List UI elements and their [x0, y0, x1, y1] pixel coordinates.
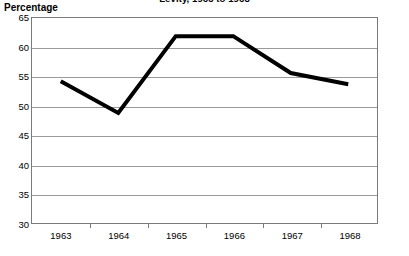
y-tick-label: 40	[18, 161, 29, 171]
y-tick-label: 45	[18, 132, 29, 142]
x-axis-tick	[321, 223, 322, 228]
x-tick-label: 1966	[224, 230, 245, 241]
x-axis-tick	[206, 223, 207, 228]
x-axis-tick	[263, 223, 264, 228]
plot-area: 6560555045403530 19631964196519661967196…	[31, 17, 378, 224]
series-line-percentage	[32, 18, 377, 223]
x-tick-label: 1967	[282, 230, 303, 241]
line-path	[61, 36, 348, 113]
y-tick-label: 50	[18, 102, 29, 112]
x-axis-tick	[90, 223, 91, 228]
y-tick-label: 60	[18, 43, 29, 53]
chart-title: Levity, 1963 to 1968	[0, 0, 409, 4]
chart-container: Levity, 1963 to 1968 Percentage 65605550…	[0, 0, 409, 256]
x-tick-label: 1963	[50, 230, 71, 241]
y-tick-label: 35	[18, 191, 29, 201]
y-tick-label: 55	[18, 72, 29, 82]
x-tick-label: 1968	[340, 230, 361, 241]
x-tick-label: 1965	[166, 230, 187, 241]
x-axis-tick	[148, 223, 149, 228]
x-tick-label: 1964	[108, 230, 129, 241]
y-tick-label: 30	[18, 220, 29, 230]
y-tick-label: 65	[18, 13, 29, 23]
y-axis-label: Percentage	[4, 2, 58, 13]
